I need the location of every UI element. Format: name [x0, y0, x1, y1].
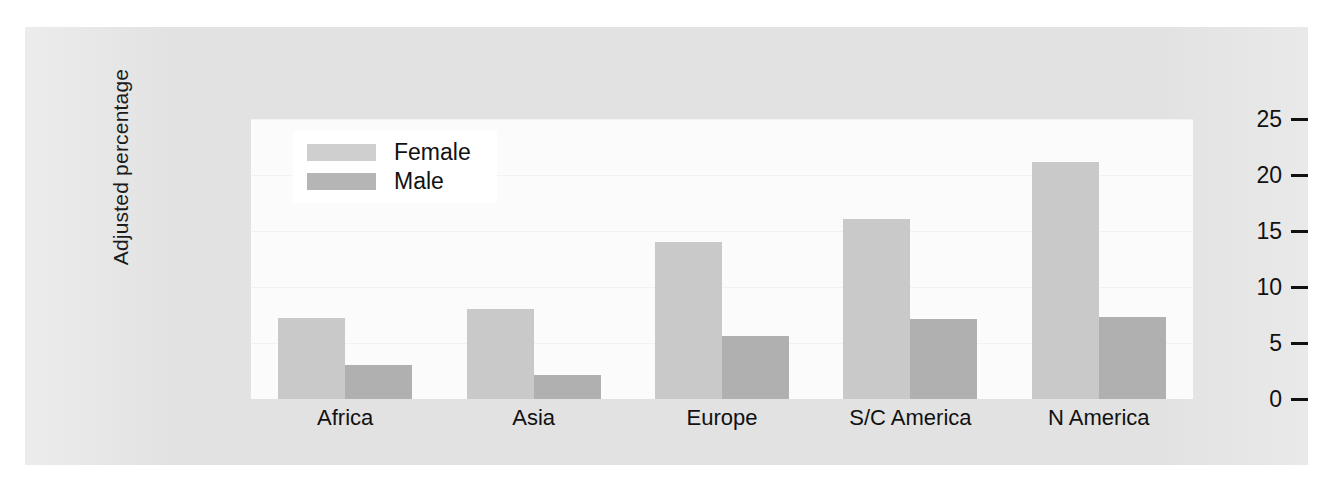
- bar-group: [628, 119, 816, 399]
- bar-male: [534, 375, 601, 399]
- y-axis-tick-label: 0: [1252, 389, 1282, 409]
- legend-swatch-male: [307, 173, 376, 190]
- y-axis-tick-mark: [1291, 342, 1308, 345]
- y-axis-title: Adjusted percentage: [109, 17, 133, 317]
- bar-male: [910, 319, 977, 399]
- legend-item: Female: [307, 141, 471, 164]
- bar-group: [816, 119, 1004, 399]
- x-axis-label: S/C America: [816, 405, 1004, 431]
- y-axis-tick-label: 20: [1252, 165, 1282, 185]
- bar-male: [722, 336, 789, 399]
- legend-label: Female: [394, 141, 471, 164]
- bar-female: [655, 242, 722, 399]
- legend-label: Male: [394, 170, 444, 193]
- x-axis-label: N America: [1005, 405, 1193, 431]
- y-axis-tick-mark: [1291, 398, 1308, 401]
- y-axis-tick-label: 15: [1252, 221, 1282, 241]
- chart-figure: Adjusted percentage 0510152025 FemaleMal…: [0, 0, 1327, 484]
- legend-swatch-female: [307, 144, 376, 161]
- plot-inner: FemaleMale: [251, 119, 1193, 399]
- plot-area: FemaleMale: [251, 119, 1193, 399]
- x-axis-label: Europe: [628, 405, 816, 431]
- figure-panel: Adjusted percentage 0510152025 FemaleMal…: [25, 27, 1308, 465]
- bar-female: [843, 219, 910, 399]
- x-axis-label: Asia: [439, 405, 627, 431]
- bar-female: [278, 318, 345, 399]
- y-axis-tick-mark: [1291, 230, 1308, 233]
- legend-item: Male: [307, 170, 471, 193]
- y-axis-tick-mark: [1291, 118, 1308, 121]
- y-axis-tick-mark: [1291, 174, 1308, 177]
- bar-male: [345, 365, 412, 399]
- chart-legend: FemaleMale: [293, 131, 497, 203]
- x-axis-label: Africa: [251, 405, 439, 431]
- x-axis-labels: AfricaAsiaEuropeS/C AmericaN America: [251, 405, 1193, 431]
- bar-female: [467, 309, 534, 399]
- bar-female: [1032, 162, 1099, 399]
- y-axis-tick-label: 25: [1252, 109, 1282, 129]
- y-axis-tick-mark: [1291, 286, 1308, 289]
- y-axis-tick-label: 5: [1252, 333, 1282, 353]
- bar-male: [1099, 317, 1166, 399]
- y-axis-tick-label: 10: [1252, 277, 1282, 297]
- bar-group: [1005, 119, 1193, 399]
